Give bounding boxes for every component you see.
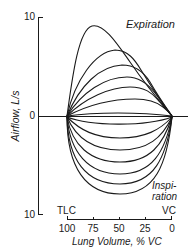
inspiration-annotation-line2: ration [152,191,177,202]
insp-curve-1 [67,117,172,124]
inspiration-annotation-line1: Inspi- [152,180,176,191]
insp-curve-2 [67,117,172,138]
vc-label: VC [162,205,176,216]
x-tick-label-75: 75 [87,224,98,234]
insp-curve-3 [67,117,172,150]
tlc-label: TLC [57,205,76,216]
y-tick-label-bottom: 10 [24,210,35,220]
y-axis-label: Airflow, L/s [9,76,21,156]
x-tick-label-25: 25 [139,224,150,234]
exp-curve-2 [67,50,172,116]
x-tick-label-50: 50 [113,224,124,234]
exp-curve-5 [67,87,172,116]
exp-curve-7 [67,113,172,116]
expiration-curves [67,26,172,116]
x-axis-label: Lung Volume, % VC [72,236,162,247]
y-tick-label-zero: 0 [29,111,35,121]
x-tick-label-0: 0 [169,224,175,234]
y-tick-label-top: 10 [24,12,35,22]
expiration-annotation: Expiration [126,19,175,30]
x-tick-label-100: 100 [59,224,76,234]
